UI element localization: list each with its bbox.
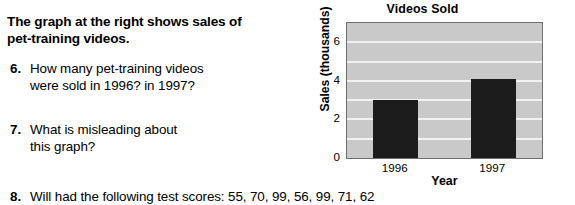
chart-title: Videos Sold [300, 2, 545, 16]
gridline [347, 61, 542, 63]
question-line: this graph? [30, 139, 177, 156]
y-tick-label: 0 [334, 152, 340, 162]
question-item-8: 8. Will had the following test scores: 5… [6, 189, 566, 205]
question-text: Will had the following test scores: 55, … [30, 189, 374, 205]
intro-line: pet-training videos. [7, 31, 297, 48]
question-number: 7. [6, 122, 30, 139]
y-tick-label: 2 [334, 113, 340, 123]
bar-1996 [373, 100, 418, 158]
gridline [347, 41, 542, 43]
question-item-6: 6. How many pet-training videos were sol… [6, 61, 204, 94]
question-item-7: 7. What is misleading about this graph? [6, 122, 177, 155]
worksheet-text-column: The graph at the right shows sales of pe… [0, 0, 300, 205]
question-number: 6. [6, 61, 30, 78]
bar-1997 [471, 79, 516, 158]
y-tick-label: 4 [334, 75, 340, 85]
y-tick-label: 6 [334, 36, 340, 46]
plot-area [346, 22, 543, 159]
videos-sold-bar-chart: Videos Sold Sales (thousands) 0246 19961… [300, 0, 575, 185]
question-line: What is misleading about [30, 122, 177, 139]
question-line: Will had the following test scores: 55, … [30, 189, 374, 205]
y-axis-tick-labels: 0246 [324, 22, 340, 162]
x-tick-label: 1997 [479, 161, 505, 174]
x-axis-tick-labels: 19961997 [346, 161, 543, 175]
question-text: How many pet-training videos were sold i… [30, 61, 204, 94]
intro-paragraph: The graph at the right shows sales of pe… [7, 14, 297, 47]
question-number: 8. [6, 189, 30, 205]
intro-line: The graph at the right shows sales of [7, 14, 297, 31]
question-line: were sold in 1996? in 1997? [30, 78, 204, 95]
x-tick-label: 1996 [382, 161, 408, 174]
x-axis-label: Year [346, 174, 543, 188]
question-text: What is misleading about this graph? [30, 122, 177, 155]
question-line: How many pet-training videos [30, 61, 204, 78]
